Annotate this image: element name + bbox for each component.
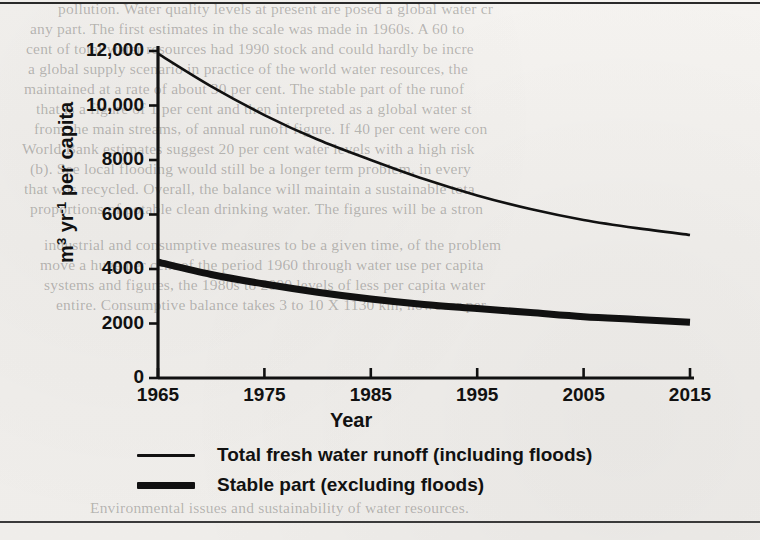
x-axis-title: Year	[330, 409, 372, 432]
y-tick-label-12000: 12,000	[34, 39, 144, 61]
series-line-1-thin	[158, 54, 690, 235]
y-axis-title-percapita: per capita	[55, 102, 77, 202]
x-tick-label-1995: 1995	[432, 384, 522, 406]
water-runoff-per-capita-chart: 12,00010,00080006000400020000 1965197519…	[0, 0, 760, 540]
legend-swatch-bar	[137, 482, 195, 489]
x-tick-label-1965: 1965	[113, 384, 203, 406]
legend-label: Total fresh water runoff (including floo…	[217, 444, 592, 466]
data-series-layer	[158, 54, 690, 322]
legend-line-swatch-thick	[137, 482, 195, 489]
y-axis-title-unit: m	[55, 245, 77, 263]
y-tick-label-4000: 4000	[34, 257, 144, 279]
y-axis-title-yr: yr	[55, 213, 77, 237]
x-tick-label-1975: 1975	[219, 384, 309, 406]
chart-legend: Total fresh water runoff (including floo…	[137, 440, 592, 500]
legend-swatch-bar	[137, 454, 195, 457]
x-tick-label-2015: 2015	[645, 384, 735, 406]
x-tick-label-2005: 2005	[539, 384, 629, 406]
legend-line-swatch-thin	[137, 454, 195, 457]
y-axis-title-exponent-3: 3	[54, 238, 69, 245]
figure-page: pollution. Water quality levels at prese…	[0, 0, 760, 540]
y-tick-label-10000: 10,000	[34, 94, 144, 116]
legend-label: Stable part (excluding floods)	[217, 474, 484, 496]
legend-item-1: Total fresh water runoff (including floo…	[137, 440, 592, 470]
series-line-2-thick	[158, 262, 690, 322]
y-tick-label-2000: 2000	[34, 312, 144, 334]
y-axis-title: m3 yr-1 per capita	[54, 72, 79, 292]
x-tick-label-1985: 1985	[326, 384, 416, 406]
y-tick-label-6000: 6000	[34, 203, 144, 225]
axis-lines	[158, 46, 694, 378]
y-tick-label-8000: 8000	[34, 148, 144, 170]
y-axis-title-exponent-minus1: -1	[54, 202, 69, 214]
tick-marks	[149, 51, 690, 378]
legend-item-2: Stable part (excluding floods)	[137, 470, 592, 500]
